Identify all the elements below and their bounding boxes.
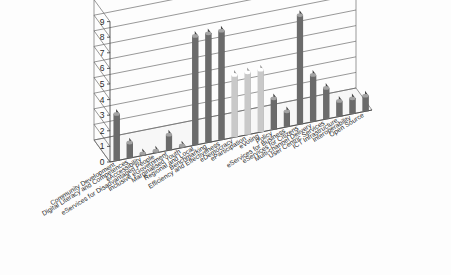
gridline xyxy=(94,26,356,78)
bar-cap xyxy=(127,141,133,145)
bar-cap xyxy=(310,73,316,77)
bar-cap xyxy=(362,94,368,98)
bar xyxy=(113,114,119,161)
bar xyxy=(166,135,172,151)
bar-cap xyxy=(113,112,119,116)
bar-cap xyxy=(323,86,329,90)
bar-cap xyxy=(271,96,277,100)
bar xyxy=(336,101,342,117)
bar xyxy=(297,15,303,124)
bar-cap xyxy=(231,73,237,77)
y-axis-tick-label: 4 xyxy=(100,95,105,105)
bar-cap xyxy=(166,133,172,137)
bar-cap xyxy=(349,96,355,100)
bar-cap xyxy=(179,144,185,148)
bar-cap xyxy=(336,99,342,103)
bar-cap xyxy=(258,68,264,72)
y-axis-tick-label: 7 xyxy=(100,48,105,58)
bar-cap xyxy=(218,29,224,33)
bar-cap xyxy=(205,31,211,35)
bar xyxy=(127,143,133,159)
y-axis-tick-label: 2 xyxy=(100,126,105,136)
y-axis-tick-label: 6 xyxy=(100,63,105,73)
bar xyxy=(218,31,224,140)
y-axis-tick-label: 3 xyxy=(100,110,105,120)
y-axis-tick-label: 9 xyxy=(100,17,105,27)
bar xyxy=(349,98,355,114)
y-axis-tick-label: 1 xyxy=(100,141,105,151)
bar-cap xyxy=(297,13,303,17)
chart-canvas: 0123456789Community DevelopmentDigital L… xyxy=(0,0,451,275)
bar-cap xyxy=(140,151,146,155)
bar xyxy=(284,111,290,127)
gridline xyxy=(94,41,356,93)
y-axis-tick-label: 8 xyxy=(100,32,105,42)
bar xyxy=(205,33,211,142)
gridline xyxy=(94,10,356,62)
bar-cap xyxy=(284,109,290,113)
gridline xyxy=(94,0,356,31)
bar xyxy=(271,98,277,129)
bar-cap xyxy=(244,70,250,74)
bar xyxy=(231,75,237,137)
bar xyxy=(310,75,316,122)
bar xyxy=(192,36,198,145)
bar xyxy=(323,88,329,119)
bar-cap xyxy=(153,149,159,153)
bar xyxy=(258,70,264,132)
bar xyxy=(244,72,250,134)
y-axis-tick-label: 5 xyxy=(100,79,105,89)
bar-chart: 0123456789Community DevelopmentDigital L… xyxy=(0,0,451,275)
bar xyxy=(362,96,368,112)
bar-cap xyxy=(192,34,198,38)
